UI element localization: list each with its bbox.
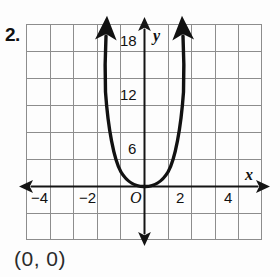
- answer-text: (0, 0): [14, 248, 66, 269]
- problem-number: 2.: [5, 25, 20, 44]
- y-tick-12: 12: [120, 87, 137, 102]
- origin-label: O: [130, 190, 142, 206]
- x-tick-2: 2: [176, 190, 184, 205]
- x-tick-4: 4: [224, 190, 232, 205]
- x-tick-neg4: −4: [31, 190, 48, 205]
- x-axis-label: x: [245, 167, 253, 183]
- y-axis-label: y: [153, 28, 160, 44]
- graph-canvas: [26, 24, 262, 240]
- x-tick-neg2: −2: [79, 190, 96, 205]
- y-tick-6: 6: [128, 141, 136, 156]
- y-tick-18: 18: [120, 33, 137, 48]
- parabola-curve: [26, 24, 262, 240]
